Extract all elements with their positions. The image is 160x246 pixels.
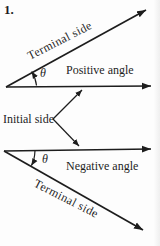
initial-side-pointer-bottom: [53, 119, 79, 146]
initial-side-label: Initial side: [3, 112, 54, 126]
negative-terminal-side-label: Terminal side: [32, 176, 101, 221]
figure-canvas: 1. θ Positive angle Terminal side Initia…: [0, 0, 160, 246]
angle-diagram: 1. θ Positive angle Terminal side Initia…: [0, 0, 160, 246]
figure-number: 1.: [4, 2, 14, 17]
positive-theta-label: θ: [40, 66, 46, 80]
negative-theta-label: θ: [42, 152, 48, 166]
positive-terminal-side-label: Terminal side: [25, 18, 94, 63]
positive-angle-arc: [32, 72, 37, 86]
negative-initial-side-ray: [4, 149, 151, 151]
negative-angle-label: Negative angle: [66, 159, 138, 173]
negative-angle-arc: [31, 151, 35, 166]
positive-initial-side-ray: [6, 86, 151, 87]
positive-angle-label: Positive angle: [66, 63, 134, 77]
initial-side-pointer-top: [53, 90, 82, 119]
